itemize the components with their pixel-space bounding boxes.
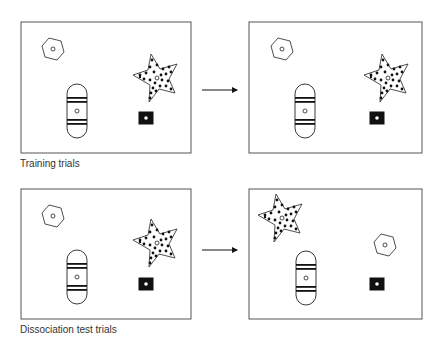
dotted-star-icon (364, 54, 408, 102)
striped-capsule-icon (296, 251, 316, 305)
black-square-icon (139, 112, 154, 125)
diagram-canvas (0, 0, 438, 343)
striped-capsule-icon (295, 84, 315, 138)
black-square-icon (370, 112, 385, 125)
training-trials-caption: Training trials (20, 158, 80, 169)
hexagon-icon (42, 205, 64, 227)
hexagon-icon (42, 38, 64, 60)
dotted-star-icon (133, 54, 177, 102)
hexagon-icon (374, 234, 396, 256)
dotted-star-icon (133, 219, 177, 267)
black-square-icon (139, 278, 154, 291)
striped-capsule-icon (67, 250, 87, 304)
dotted-star-icon (258, 194, 302, 242)
striped-capsule-icon (67, 84, 87, 138)
black-square-icon (370, 278, 385, 291)
dissociation-test-trials-caption: Dissociation test trials (20, 324, 117, 335)
hexagon-icon (271, 38, 293, 60)
